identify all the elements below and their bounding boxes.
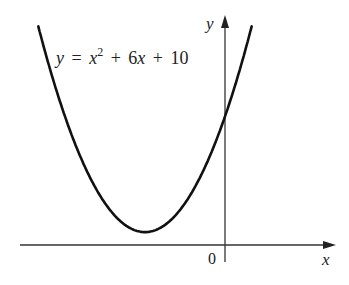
origin-label: 0 xyxy=(208,250,216,267)
x-axis-arrow-icon xyxy=(323,241,336,249)
x-axis xyxy=(20,241,336,249)
graph-canvas: y x 0 y = x2 + 6x + 10 xyxy=(0,0,349,285)
y-axis-arrow-icon xyxy=(221,15,229,28)
y-axis xyxy=(221,15,229,262)
x-axis-label: x xyxy=(321,250,330,269)
y-axis-label: y xyxy=(204,14,214,33)
equation-label: y = x2 + 6x + 10 xyxy=(54,40,188,68)
